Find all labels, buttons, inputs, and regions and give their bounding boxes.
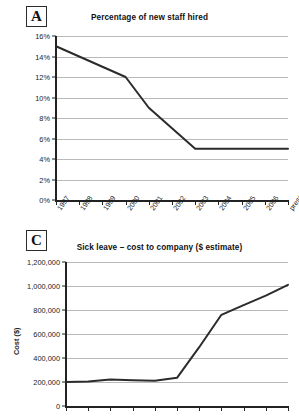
figure-page: A Percentage of new staff hired 0%2%4%6%… — [0, 0, 299, 419]
data-series-line — [0, 230, 299, 419]
chart-percentage-new-staff-hired: 0%2%4%6%8%10%12%14%16%199719981999200020… — [0, 0, 299, 230]
data-series-line — [0, 0, 299, 230]
chart-sick-leave-cost: Cost ($) 0200,000400,000600,000800,0001,… — [0, 230, 299, 419]
